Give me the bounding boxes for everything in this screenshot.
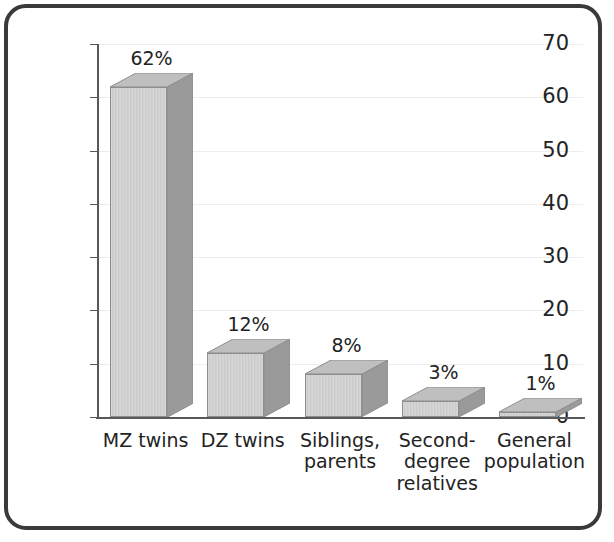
bar-value-label: 62% [96,49,207,68]
y-axis-tick-mark [90,204,97,205]
y-axis-tick-mark [90,151,97,152]
y-axis-tick-label: 70 [542,33,569,54]
y-axis-tick-label: 30 [542,246,569,267]
y-axis-tick-label: 10 [542,353,569,374]
x-axis-category-label: DZ twins [186,430,299,451]
bar-value-label: 3% [388,363,499,382]
bar[interactable] [207,339,290,417]
y-axis-tick-label: 20 [542,299,569,320]
x-axis-category-label: General population [478,430,591,473]
gridline [97,44,583,45]
y-axis-tick-label: 60 [542,86,569,107]
bar-front-face [499,412,556,417]
bar-value-label: 12% [193,315,304,334]
y-axis-tick-mark [90,257,97,258]
bar-chart: Per cent with bipolar depression 0102030… [0,0,614,542]
bar-front-face [402,401,459,417]
y-axis-tick-mark [90,364,97,365]
bar-front-face [110,87,167,417]
y-axis-line [97,44,99,417]
bar-value-label: 8% [291,336,402,355]
y-axis-tick-label: 50 [542,140,569,161]
bar-value-label: 1% [485,374,596,393]
bar[interactable] [499,398,582,417]
y-axis-tick-mark [90,310,97,311]
x-axis-category-label: Second- degree relatives [381,430,494,494]
y-axis-tick-mark [90,97,97,98]
plot-area: 010203040506070 [97,44,583,417]
bar-front-face [305,374,362,417]
x-axis-category-label: Siblings, parents [283,430,396,473]
y-axis-tick-label: 40 [542,193,569,214]
bar[interactable] [110,73,193,417]
bar[interactable] [402,387,485,417]
y-axis-tick-mark [90,44,97,45]
bar[interactable] [305,360,388,417]
bar-front-face [207,353,264,417]
x-axis-line [96,417,585,419]
